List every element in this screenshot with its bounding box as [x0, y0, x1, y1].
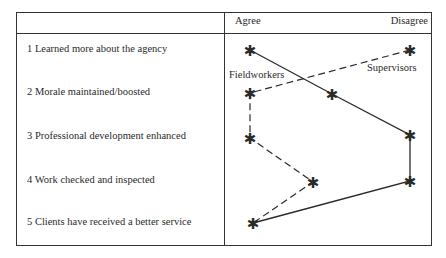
asterisk-icon: ✱ [244, 130, 257, 148]
asterisk-icon: ✱ [307, 174, 320, 192]
asterisk-icon: ✱ [404, 42, 417, 60]
asterisk-icon: ✱ [244, 85, 257, 103]
asterisk-icon: ✱ [404, 127, 417, 145]
supervisors-label: Supervisors [367, 62, 417, 73]
asterisk-icon: ✱ [247, 215, 260, 233]
asterisk-icon: ✱ [404, 173, 417, 191]
fieldworkers-label: Fieldworkers [229, 69, 284, 80]
profile-plot: ✱ ✱ ✱ ✱ ✱ ✱ ✱ ✱ ✱ [0, 0, 446, 258]
asterisk-icon: ✱ [326, 86, 339, 104]
asterisk-icon: ✱ [244, 42, 257, 60]
